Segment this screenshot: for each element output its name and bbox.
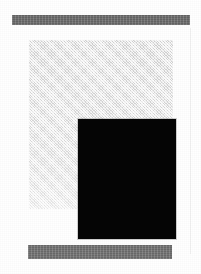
figure-panel-label [29,40,30,41]
top-banner-bar [12,15,190,25]
page-caption [0,0,1,1]
right-gutter-line [190,28,191,254]
figure-plate [78,119,176,239]
bottom-banner-bar [28,245,172,259]
top-banner-label [12,15,13,16]
scanned-page [0,0,201,274]
figure-panel [29,40,173,209]
figure-plate-label [78,119,79,120]
bottom-banner-label [28,245,29,246]
